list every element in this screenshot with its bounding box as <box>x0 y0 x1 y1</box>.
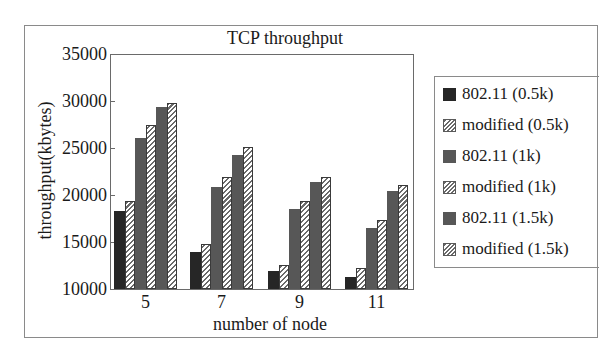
legend-item: modified (1.5k) <box>443 238 569 260</box>
legend-label: modified (1.5k) <box>462 239 569 259</box>
legend-label: modified (1k) <box>462 177 556 197</box>
bar <box>310 182 321 289</box>
bar <box>289 209 300 289</box>
legend-label: 802.11 (1k) <box>462 146 541 166</box>
bar <box>232 155 243 289</box>
bar <box>268 271 279 289</box>
y-tick-label: 35000 <box>62 45 107 63</box>
bar <box>300 201 311 289</box>
bar <box>243 147 254 289</box>
chart-title: TCP throughput <box>210 28 360 49</box>
bar <box>222 177 233 289</box>
bar <box>387 191 398 289</box>
legend-swatch-icon <box>443 243 456 256</box>
y-tick-label: 15000 <box>62 233 107 251</box>
bar <box>345 277 356 289</box>
bar <box>167 103 178 289</box>
y-axis-label: throughput(kbytes) <box>35 71 56 271</box>
bar <box>135 138 146 289</box>
bar <box>321 177 332 289</box>
y-tick-label: 20000 <box>62 186 107 204</box>
bar <box>211 187 222 289</box>
bar <box>201 244 212 289</box>
legend-label: modified (0.5k) <box>462 115 569 135</box>
legend-label: 802.11 (0.5k) <box>462 84 553 104</box>
bar <box>190 252 201 289</box>
bar <box>125 201 136 289</box>
legend-swatch-icon <box>443 212 456 225</box>
legend-item: 802.11 (1k) <box>443 145 541 167</box>
y-tick-label: 30000 <box>62 92 107 110</box>
legend: 802.11 (0.5k)modified (0.5k)802.11 (1k)m… <box>434 76 599 268</box>
bar <box>398 185 409 289</box>
legend-swatch-icon <box>443 119 456 132</box>
bar <box>146 125 157 290</box>
x-tick-label: 7 <box>202 292 242 313</box>
x-tick-label: 9 <box>280 292 320 313</box>
bar <box>156 107 167 289</box>
x-tick-label: 5 <box>126 292 166 313</box>
bar <box>377 220 388 289</box>
legend-label: 802.11 (1.5k) <box>462 208 553 228</box>
legend-swatch-icon <box>443 150 456 163</box>
y-tick-label: 10000 <box>62 280 107 298</box>
legend-item: modified (0.5k) <box>443 114 569 136</box>
bar <box>279 265 290 289</box>
legend-item: 802.11 (0.5k) <box>443 83 553 105</box>
bar <box>356 268 367 289</box>
bar <box>114 211 125 289</box>
legend-swatch-icon <box>443 88 456 101</box>
bar <box>366 228 377 289</box>
y-tick-label: 25000 <box>62 139 107 157</box>
legend-item: modified (1k) <box>443 176 556 198</box>
legend-swatch-icon <box>443 181 456 194</box>
x-axis-label: number of node <box>170 314 370 335</box>
legend-item: 802.11 (1.5k) <box>443 207 553 229</box>
x-tick-label: 11 <box>357 292 397 313</box>
